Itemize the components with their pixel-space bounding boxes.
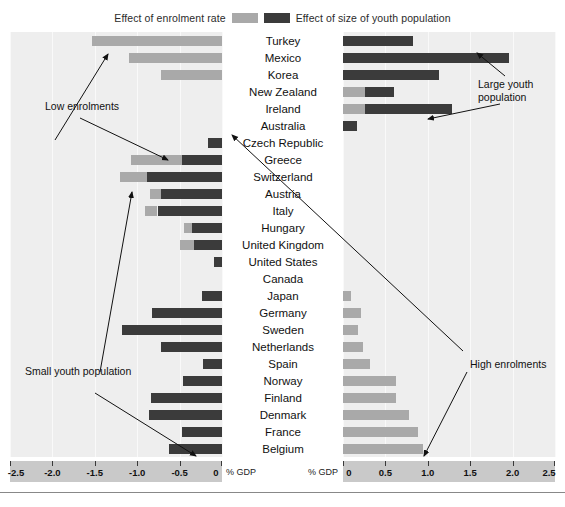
country-label: Ireland — [224, 100, 342, 118]
axis-tick-label: -1.0 — [129, 467, 145, 478]
table-row — [10, 287, 222, 305]
table-row — [10, 423, 222, 441]
bar-youth-population — [208, 138, 222, 148]
country-label: Norway — [224, 372, 342, 390]
table-row — [10, 185, 222, 203]
country-label: Turkey — [224, 32, 342, 50]
left-axis: -2.5-2.0-1.5-1.0-0.50 — [10, 461, 222, 482]
bar-enrolment-rate — [150, 189, 161, 199]
bar-youth-population — [365, 87, 394, 97]
table-row — [343, 389, 555, 407]
country-label: France — [224, 423, 342, 441]
bar-youth-population — [192, 223, 222, 233]
bar-enrolment-rate — [145, 206, 158, 216]
table-row — [10, 270, 222, 288]
table-row — [343, 49, 555, 67]
bar-enrolment-rate — [180, 240, 194, 250]
legend-swatch-light — [232, 13, 258, 23]
axis-tick — [385, 461, 386, 466]
table-row — [10, 134, 222, 152]
bar-youth-population — [214, 257, 222, 267]
table-row — [343, 270, 555, 288]
axis-tick — [180, 461, 181, 466]
bar-youth-population — [152, 308, 222, 318]
country-label: Australia — [224, 117, 342, 135]
bar-enrolment-rate — [343, 376, 396, 386]
chart-legend: Effect of enrolment rate Effect of size … — [0, 10, 565, 26]
bar-enrolment-rate — [343, 291, 351, 301]
bar-youth-population — [158, 206, 222, 216]
table-row — [10, 219, 222, 237]
bar-enrolment-rate — [184, 223, 193, 233]
axis-tick-label: 2.0 — [506, 467, 519, 478]
table-row — [343, 151, 555, 169]
gridline — [222, 32, 223, 457]
country-label: Belgium — [224, 440, 342, 458]
bar-enrolment-rate — [131, 155, 182, 165]
axis-tick — [52, 461, 53, 466]
bar-youth-population — [182, 427, 222, 437]
axis-tick — [221, 461, 222, 466]
legend-swatch-dark — [264, 13, 290, 23]
table-row — [10, 304, 222, 322]
country-label-column: TurkeyMexicoKoreaNew ZealandIrelandAustr… — [224, 32, 342, 457]
table-row — [343, 168, 555, 186]
table-row — [10, 83, 222, 101]
country-label: United Kingdom — [224, 236, 342, 254]
country-label: Austria — [224, 185, 342, 203]
axis-tick-label: 2.5 — [542, 467, 555, 478]
table-row — [10, 321, 222, 339]
axis-tick — [343, 461, 344, 466]
table-row — [10, 151, 222, 169]
axis-tick-label: 0 — [213, 467, 218, 478]
bar-enrolment-rate — [343, 393, 396, 403]
table-row — [343, 406, 555, 424]
axis-tick-label: -0.5 — [171, 467, 187, 478]
bar-youth-population — [122, 325, 222, 335]
bar-enrolment-rate — [343, 359, 370, 369]
table-row — [10, 66, 222, 84]
table-row — [10, 253, 222, 271]
annotation-small-youth-population: Small youth population — [25, 365, 131, 378]
bar-enrolment-rate — [343, 104, 365, 114]
bar-youth-population — [182, 155, 222, 165]
table-row — [10, 49, 222, 67]
bar-enrolment-rate — [343, 410, 409, 420]
right-axis: 00.51.01.52.02.5 — [343, 461, 555, 482]
country-label: Hungary — [224, 219, 342, 237]
bar-youth-population — [194, 240, 222, 250]
table-row — [10, 236, 222, 254]
table-row — [343, 440, 555, 458]
country-label: Canada — [224, 270, 342, 288]
table-row — [10, 440, 222, 458]
left-plot-area — [10, 32, 222, 457]
axis-tick-label: 1.0 — [421, 467, 434, 478]
axis-tick — [428, 461, 429, 466]
bar-enrolment-rate — [129, 53, 222, 63]
axis-tick — [513, 461, 514, 466]
table-row — [343, 338, 555, 356]
annotation-low-enrolments: Low enrolments — [45, 100, 119, 113]
table-row — [343, 287, 555, 305]
country-label: Germany — [224, 304, 342, 322]
country-label: Czech Republic — [224, 134, 342, 152]
bar-youth-population — [203, 359, 223, 369]
left-axis-unit-label: % GDP — [226, 467, 256, 477]
axis-tick-label: -2.0 — [44, 467, 60, 478]
table-row — [343, 321, 555, 339]
axis-tick-label: -1.5 — [87, 467, 103, 478]
country-label: Mexico — [224, 49, 342, 67]
annotation-large-youth-population: Large youth population — [478, 78, 533, 104]
country-label: Switzerland — [224, 168, 342, 186]
country-label: Greece — [224, 151, 342, 169]
table-row — [343, 219, 555, 237]
table-row — [10, 389, 222, 407]
axis-tick — [95, 461, 96, 466]
right-axis-unit-label: % GDP — [308, 467, 338, 477]
bar-enrolment-rate — [343, 427, 418, 437]
bar-enrolment-rate — [92, 36, 222, 46]
bar-enrolment-rate — [343, 325, 358, 335]
axis-tick-label: 1.5 — [464, 467, 477, 478]
axis-tick-label: 0 — [346, 467, 351, 478]
table-row — [10, 32, 222, 50]
